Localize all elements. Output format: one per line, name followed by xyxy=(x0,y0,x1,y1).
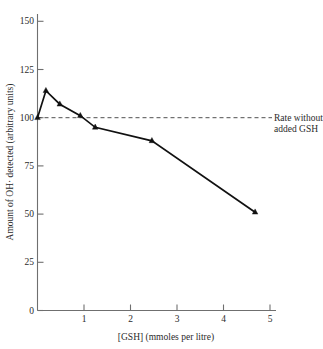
x-axis-ticks xyxy=(84,305,270,311)
reference-annotation: Rate without added GSH xyxy=(274,113,323,134)
y-tick-label-150: 150 xyxy=(20,16,35,26)
y-axis-title: Amount of OH· detected (arbitrary units) xyxy=(5,84,16,241)
x-axis-title: [GSH] (mmoles per litre) xyxy=(118,332,214,343)
data-point-marker-0 xyxy=(35,114,41,119)
y-tick-label-50: 50 xyxy=(25,209,35,219)
series-markers xyxy=(35,87,258,214)
series-line-oh-detected xyxy=(38,91,256,213)
line-chart-svg: 0 25 50 75 100 125 150 1 2 3 4 5 xyxy=(0,0,323,349)
annotation-line-1: Rate without xyxy=(274,113,323,123)
chart-figure: 0 25 50 75 100 125 150 1 2 3 4 5 xyxy=(0,0,323,349)
y-tick-label-25: 25 xyxy=(25,257,35,267)
x-tick-label-2: 2 xyxy=(128,314,133,324)
annotation-line-2: added GSH xyxy=(274,124,318,134)
y-tick-label-125: 125 xyxy=(20,65,35,75)
x-tick-label-1: 1 xyxy=(82,314,87,324)
y-axis-ticks xyxy=(38,21,44,310)
x-axis-tick-labels: 1 2 3 4 5 xyxy=(82,314,273,324)
x-tick-label-5: 5 xyxy=(268,314,273,324)
y-tick-label-75: 75 xyxy=(25,161,35,171)
y-axis-tick-labels: 0 25 50 75 100 125 150 xyxy=(20,16,35,315)
data-point-marker-1 xyxy=(43,87,49,92)
x-tick-label-3: 3 xyxy=(175,314,180,324)
x-tick-label-4: 4 xyxy=(221,314,226,324)
y-tick-label-0: 0 xyxy=(29,306,34,316)
y-tick-label-100: 100 xyxy=(20,113,35,123)
